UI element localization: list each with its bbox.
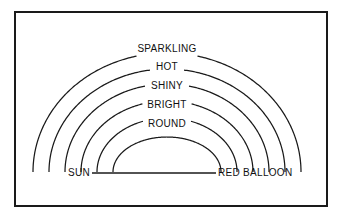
- semantic-arc-diagram: SPARKLINGHOTSHINYBRIGHTROUND SUN RED BAL…: [0, 0, 341, 222]
- arc-shiny: [189, 86, 269, 172]
- arc-label-bright: BRIGHT: [147, 99, 187, 110]
- arc-sparkling: [197, 56, 301, 172]
- arc-shiny: [65, 86, 145, 172]
- node-label-red-balloon: RED BALLOON: [218, 167, 292, 178]
- arc-label-round: ROUND: [148, 118, 186, 129]
- arc-label-shiny: SHINY: [151, 80, 183, 91]
- arc-round: [97, 121, 143, 172]
- arc-label-group: SPARKLINGHOTSHINYBRIGHTROUND: [137, 43, 196, 129]
- arc-inner-unlabeled: [113, 137, 221, 172]
- arc-round: [191, 121, 237, 172]
- arc-label-hot: HOT: [156, 61, 178, 72]
- arc-label-sparkling: SPARKLING: [137, 43, 196, 54]
- arc-sparkling: [33, 56, 137, 172]
- diagram-canvas: SPARKLINGHOTSHINYBRIGHTROUND SUN RED BAL…: [0, 0, 341, 222]
- arc-group: [33, 56, 301, 172]
- node-label-sun: SUN: [68, 167, 90, 178]
